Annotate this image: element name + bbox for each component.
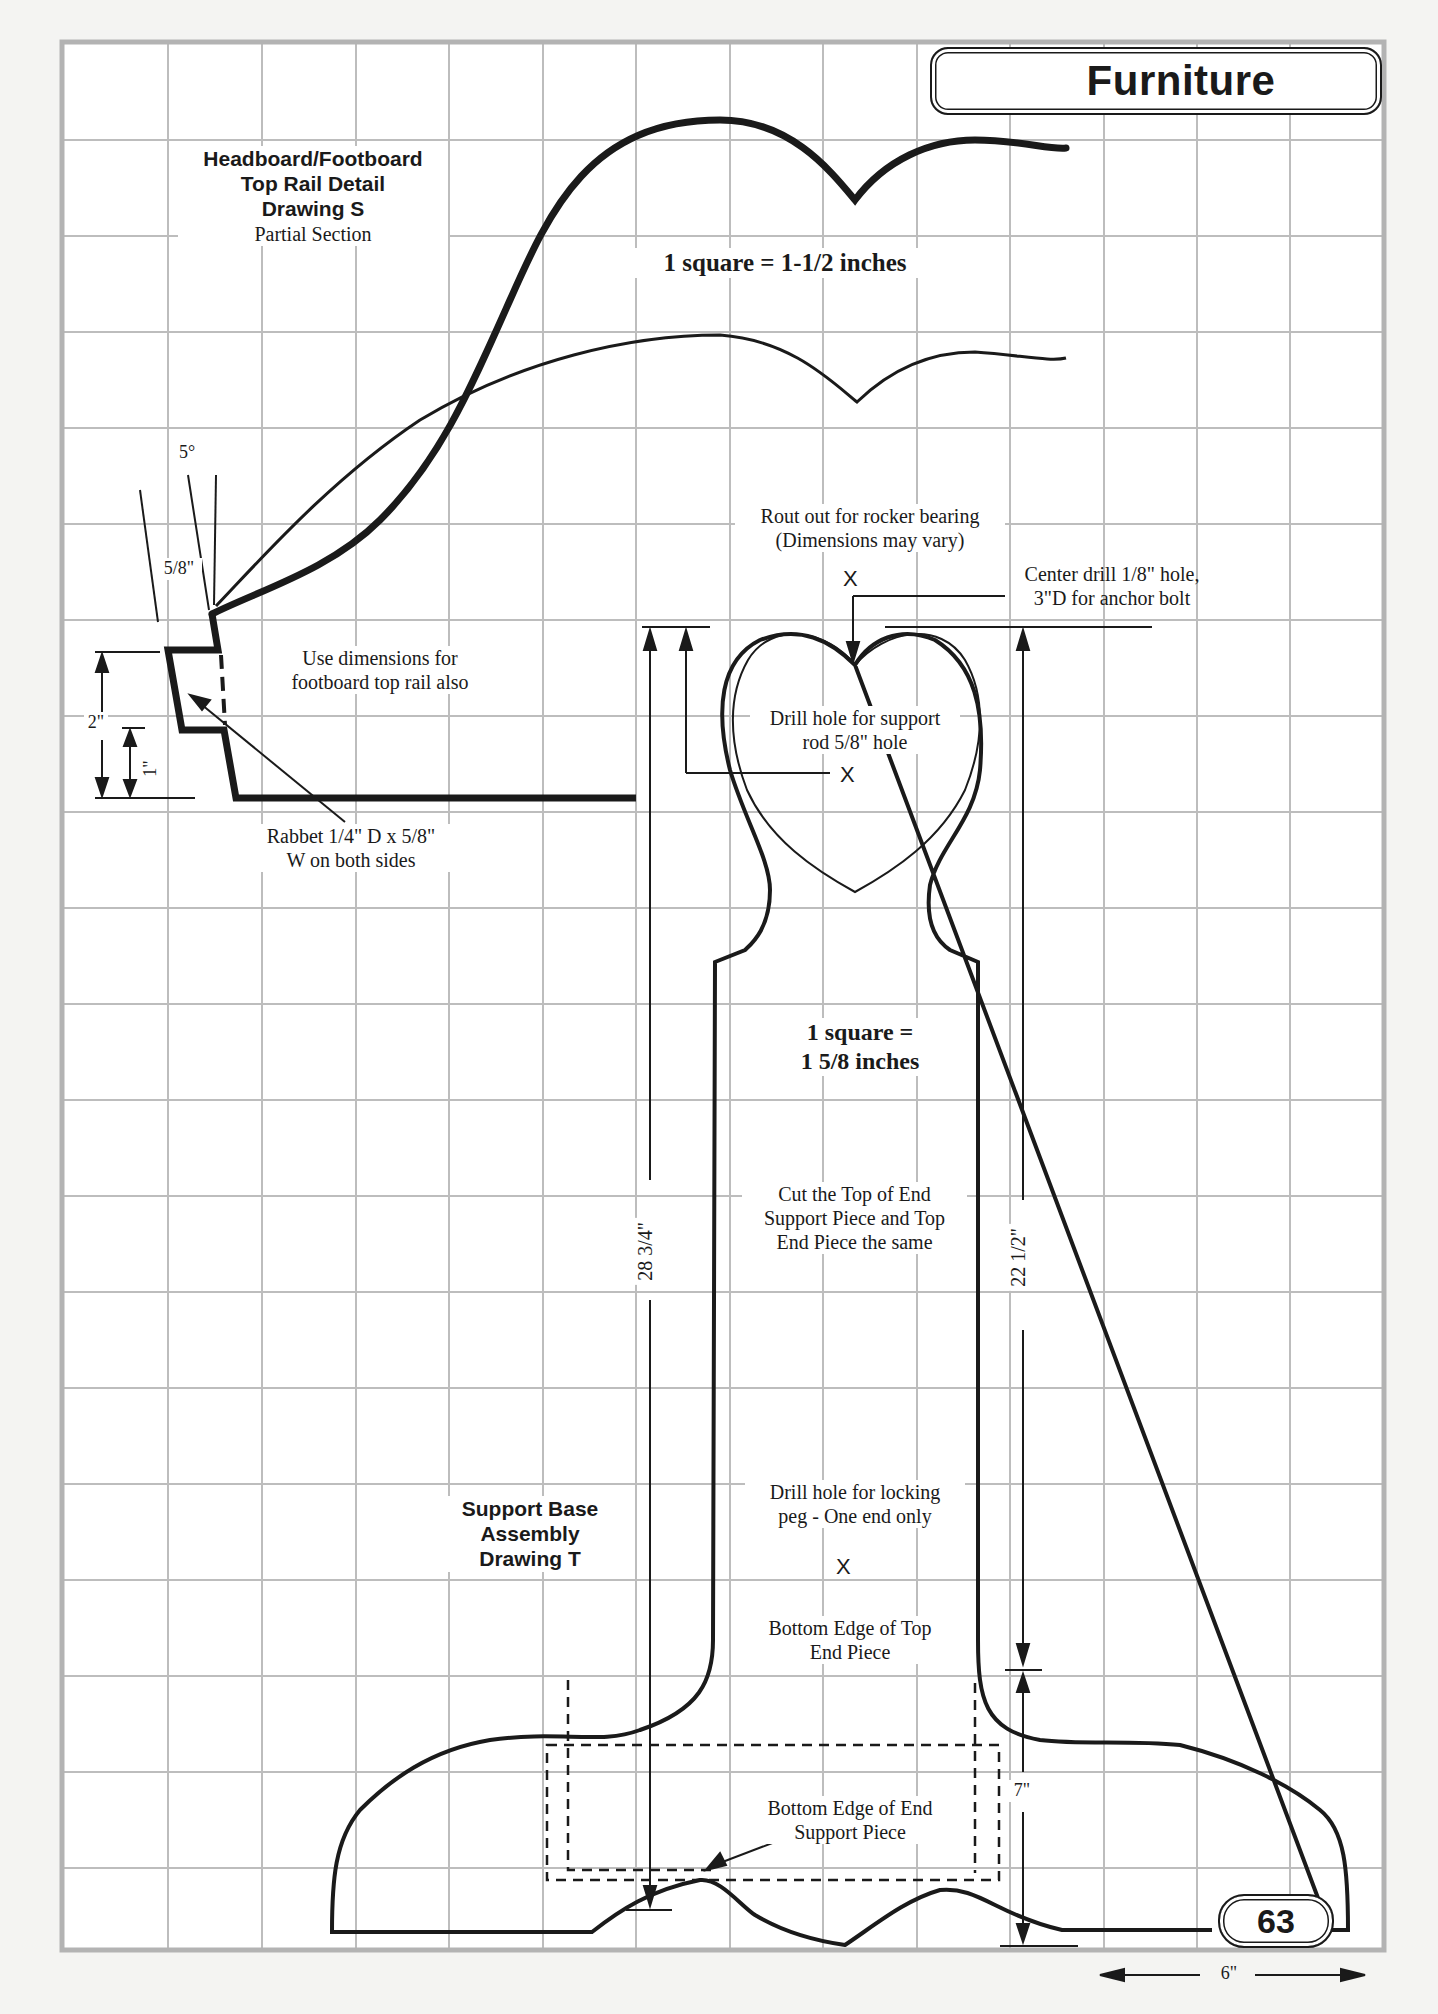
note-center-drill-line-2: 3"D for anchor bolt [1002,586,1222,610]
drawing-s-subtitle: Partial Section [178,222,448,246]
note-support-rod: Drill hole for support rod 5/8" hole [750,706,960,754]
grid-paper [62,42,1384,1950]
drawing-canvas [0,0,1438,2014]
drawing-t-title-line-3: Drawing T [440,1546,620,1571]
note-center-drill-line-1: Center drill 1/8" hole, [1002,562,1222,586]
rocker-bearing-mark: X [843,566,858,592]
drawing-t-title-line-2: Assembly [440,1521,620,1546]
note-bottom-top-end: Bottom Edge of Top End Piece [745,1616,955,1664]
note-rabbet: Rabbet 1/4" D x 5/8" W on both sides [236,824,466,872]
note-rocker-bearing: Rout out for rocker bearing (Dimensions … [735,504,1005,552]
note-footboard-line-2: footboard top rail also [270,670,490,694]
drawing-t-scale-line-1: 1 square = [765,1018,955,1047]
page-number: 63 [1257,1902,1295,1941]
angle-label: 5° [174,442,200,464]
note-cut-top-line-2: Support Piece and Top [742,1206,967,1230]
note-bottom-support-line-1: Bottom Edge of End [745,1796,955,1820]
note-locking-peg: Drill hole for locking peg - One end onl… [745,1480,965,1528]
note-bottom-support: Bottom Edge of End Support Piece [745,1796,955,1844]
drawing-sheet: Furniture Headboard/Footboard Top Rail D… [0,0,1438,2014]
section-title-tab: Furniture [930,47,1382,115]
note-rocker-line-2: (Dimensions may vary) [735,528,1005,552]
note-footboard-line-1: Use dimensions for [270,646,490,670]
note-rocker-line-1: Rout out for rocker bearing [735,504,1005,528]
bottom-dimension-label: 6" [1205,1963,1253,1985]
dimension-base-label: 7" [1008,1780,1036,1802]
page-number-badge: 63 [1218,1894,1334,1948]
section-title: Furniture [1037,57,1276,105]
drawing-t-title: Support Base Assembly Drawing T [440,1496,620,1572]
note-locking-peg-line-1: Drill hole for locking [745,1480,965,1504]
support-rod-mark: X [840,762,855,788]
drawing-t-scale-line-2: 1 5/8 inches [765,1047,955,1076]
note-support-rod-line-2: rod 5/8" hole [750,730,960,754]
thickness-label: 5/8" [156,558,202,580]
height-outer-label: 2" [84,712,108,734]
note-rabbet-line-1: Rabbet 1/4" D x 5/8" [236,824,466,848]
note-rabbet-line-2: W on both sides [236,848,466,872]
drawing-s-title-line-1: Headboard/Footboard [178,146,448,171]
note-cut-top: Cut the Top of End Support Piece and Top… [742,1182,967,1254]
drawing-s-title: Headboard/Footboard Top Rail Detail Draw… [178,146,448,246]
drawing-s-scale-note: 1 square = 1-1/2 inches [620,248,950,278]
note-locking-peg-line-2: peg - One end only [745,1504,965,1528]
drawing-t-title-line-1: Support Base [440,1496,620,1521]
drawing-s-title-line-2: Top Rail Detail [178,171,448,196]
note-cut-top-line-1: Cut the Top of End [742,1182,967,1206]
dimension-left-label: 28 3/4" [634,1218,657,1285]
height-inner-label: 1" [140,756,161,780]
note-cut-top-line-3: End Piece the same [742,1230,967,1254]
note-bottom-top-line-1: Bottom Edge of Top [745,1616,955,1640]
note-footboard: Use dimensions for footboard top rail al… [270,646,490,694]
note-bottom-support-line-2: Support Piece [745,1820,955,1844]
drawing-t-scale-note: 1 square = 1 5/8 inches [765,1018,955,1076]
locking-peg-mark: X [836,1554,851,1580]
dimension-right-label: 22 1/2" [1007,1224,1030,1291]
note-center-drill: Center drill 1/8" hole, 3"D for anchor b… [1002,562,1222,610]
drawing-s-title-line-3: Drawing S [178,196,448,221]
note-support-rod-line-1: Drill hole for support [750,706,960,730]
note-bottom-top-line-2: End Piece [745,1640,955,1664]
